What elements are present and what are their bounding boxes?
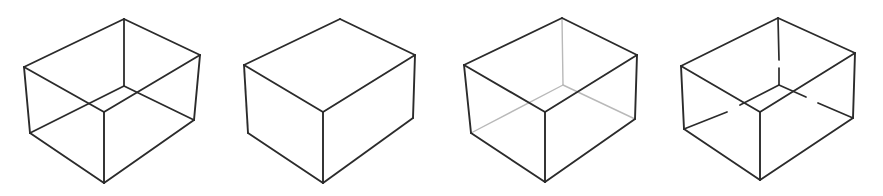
hidden-edge-back-vertical bbox=[562, 18, 563, 85]
cuboid-figure-strip bbox=[0, 0, 883, 196]
figure-background bbox=[0, 0, 883, 196]
cuboid-figure-svg bbox=[0, 0, 883, 196]
hidden-edge-back-vertical-upper-segment bbox=[778, 18, 779, 60]
